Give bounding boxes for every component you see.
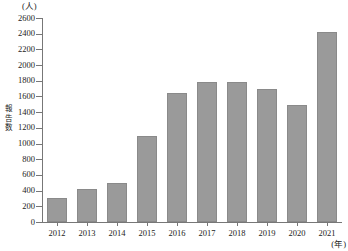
bar-chart: (人) 報 告 数 020040060080010001200140016001… — [0, 0, 348, 251]
bar — [47, 198, 67, 222]
y-axis-tick-label: 600 — [1, 170, 35, 179]
y-axis-tick-label: 1000 — [1, 139, 35, 148]
bar — [167, 93, 187, 222]
bar — [257, 89, 277, 222]
x-axis-tick — [237, 222, 238, 226]
bar — [317, 32, 337, 222]
y-axis-tick-label: 2600 — [1, 14, 35, 23]
x-axis-tick — [177, 222, 178, 226]
y-axis-tick-label: 400 — [1, 186, 35, 195]
y-axis-tick-label: 2400 — [1, 29, 35, 38]
x-axis-tick — [327, 222, 328, 226]
y-axis-tick-label: 200 — [1, 202, 35, 211]
x-axis-tick-label: 2021 — [307, 228, 347, 238]
bar — [287, 105, 307, 222]
x-axis-tick — [207, 222, 208, 226]
x-axis-tick — [147, 222, 148, 226]
x-axis-tick — [267, 222, 268, 226]
bar — [77, 189, 97, 222]
y-axis-tick-label: 0 — [1, 218, 35, 227]
bar — [107, 183, 127, 222]
x-axis-unit-label: (年) — [331, 239, 346, 249]
plot-area — [42, 18, 342, 222]
bar — [227, 82, 247, 222]
x-axis-tick — [297, 222, 298, 226]
y-axis-tick-label: 1200 — [1, 123, 35, 132]
y-axis-tick-label: 1400 — [1, 108, 35, 117]
y-axis-tick-label: 1800 — [1, 76, 35, 85]
y-axis-tick-label: 2200 — [1, 45, 35, 54]
x-axis-tick — [57, 222, 58, 226]
y-axis-tick-label: 2000 — [1, 61, 35, 70]
y-axis-tick-label: 800 — [1, 155, 35, 164]
bar — [137, 136, 157, 222]
x-axis-tick — [87, 222, 88, 226]
x-axis-tick — [117, 222, 118, 226]
bar — [197, 82, 217, 222]
y-axis-tick — [36, 222, 42, 223]
y-axis-tick-labels: 0200400600800100012001400160018002000220… — [0, 0, 35, 251]
y-axis-tick-label: 1600 — [1, 92, 35, 101]
